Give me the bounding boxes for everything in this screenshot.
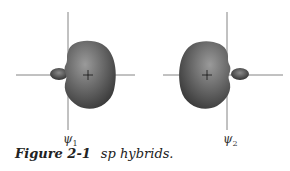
orbital-psi1 <box>16 12 135 130</box>
figure-title: sp hybrids. <box>101 146 174 161</box>
sp-hybrid-diagram <box>0 0 290 140</box>
psi2-label: ψ2 <box>223 132 238 148</box>
figure-caption: Figure 2-1sp hybrids. <box>15 146 174 161</box>
small-lobe <box>231 68 249 80</box>
orbital-psi2 <box>163 12 283 130</box>
figure-label: Figure 2-1 <box>15 146 91 161</box>
